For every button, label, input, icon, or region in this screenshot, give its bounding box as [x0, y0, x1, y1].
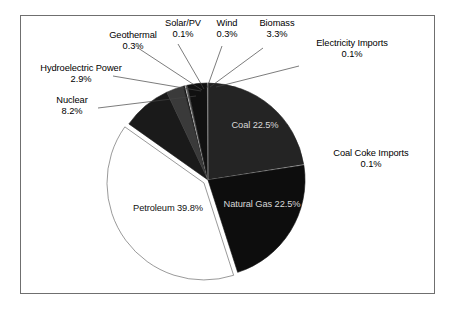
leader-line-biomass — [210, 48, 263, 87]
label-petroleum-name: Petroleum — [133, 203, 174, 213]
label-solar-pv-name: Solar/PV — [165, 18, 201, 28]
pie-slices-group — [107, 83, 305, 280]
label-nuclear-name: Nuclear — [56, 95, 87, 105]
label-coal-value: 22.5% — [253, 120, 279, 130]
label-wind-value: 0.3% — [203, 29, 251, 40]
label-electricity-imports: Electricity Imports 0.1% — [300, 38, 404, 60]
leader-line-wind — [207, 46, 222, 88]
label-natural-gas-value: 22.5% — [275, 199, 301, 209]
label-coal-coke-imports-value: 0.1% — [318, 159, 424, 170]
label-biomass: Biomass 3.3% — [248, 18, 306, 40]
label-nuclear: Nuclear 8.2% — [40, 95, 104, 117]
label-biomass-value: 3.3% — [248, 29, 306, 40]
label-coal-coke-imports-name: Coal Coke Imports — [333, 148, 408, 158]
leader-line-electricity-imports — [216, 66, 299, 87]
label-electricity-imports-name: Electricity Imports — [316, 38, 387, 48]
label-hydroelectric-power: Hydroelectric Power 2.9% — [23, 63, 139, 85]
label-nuclear-value: 8.2% — [40, 106, 104, 117]
label-electricity-imports-value: 0.1% — [300, 49, 404, 60]
label-hydroelectric-power-name: Hydroelectric Power — [40, 63, 121, 73]
pie-slice-coal[interactable] — [208, 83, 304, 180]
label-wind-name: Wind — [217, 18, 238, 28]
label-hydroelectric-power-value: 2.9% — [23, 74, 139, 85]
label-natural-gas: Natural Gas 22.5% — [222, 199, 302, 210]
leader-line-solarpv — [178, 44, 204, 89]
label-geothermal-value: 0.3% — [86, 41, 180, 52]
label-petroleum: Petroleum 39.8% — [132, 203, 204, 214]
label-biomass-name: Biomass — [260, 18, 295, 28]
label-coal-coke-imports: Coal Coke Imports 0.1% — [318, 148, 424, 170]
label-natural-gas-name: Natural Gas — [224, 199, 273, 209]
label-geothermal-name: Geothermal — [109, 30, 157, 40]
label-coal-name: Coal — [231, 120, 250, 130]
label-petroleum-value: 39.8% — [177, 203, 203, 213]
label-wind: Wind 0.3% — [203, 18, 251, 40]
label-coal: Coal 22.5% — [225, 120, 285, 131]
pie-chart-figure: Geothermal 0.3% Solar/PV 0.1% Wind 0.3% … — [0, 0, 457, 310]
